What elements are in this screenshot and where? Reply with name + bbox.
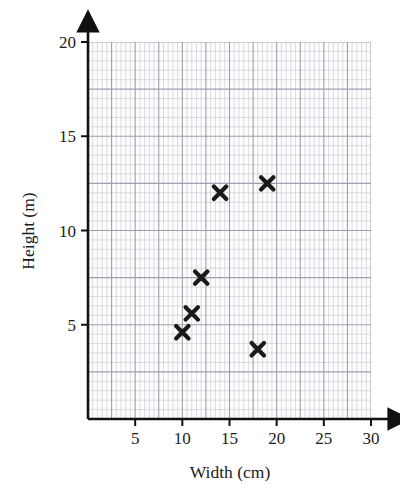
x-tick-label: 15 — [221, 429, 238, 448]
y-axis-title: Height (m) — [18, 192, 38, 269]
x-tick-label: 25 — [315, 429, 332, 448]
x-tick-label: 5 — [131, 429, 140, 448]
x-axis-title: Width (cm) — [190, 462, 271, 482]
chart-canvas: 51015202530 5101520 Width (cm) Height (m… — [0, 0, 400, 493]
x-tick-label: 20 — [268, 429, 285, 448]
y-tick-label: 15 — [59, 127, 76, 146]
y-tick-label: 10 — [59, 222, 76, 241]
x-tick-label: 10 — [174, 429, 191, 448]
scatter-plot-figure: 51015202530 5101520 Width (cm) Height (m… — [0, 0, 400, 493]
x-tick-label: 30 — [363, 429, 380, 448]
y-tick-label: 5 — [68, 316, 77, 335]
y-tick-label: 20 — [59, 33, 76, 52]
